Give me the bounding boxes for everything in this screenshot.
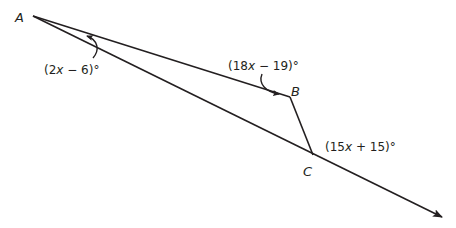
point-label-a: A	[14, 10, 24, 25]
segment-ab	[33, 16, 290, 97]
ray-ac	[33, 16, 442, 217]
point-label-b: B	[291, 84, 300, 99]
angle-b-arrow-icon	[261, 74, 279, 94]
angle-label-a: (2x − 6)°	[44, 63, 99, 77]
triangle-diagram: A B C (2x − 6)° (18x − 19)° (15x + 15)°	[0, 0, 456, 228]
point-label-c: C	[303, 164, 313, 179]
segment-bc	[290, 97, 313, 155]
angle-label-b: (18x − 19)°	[228, 59, 299, 73]
angle-label-c-exterior: (15x + 15)°	[325, 140, 396, 154]
